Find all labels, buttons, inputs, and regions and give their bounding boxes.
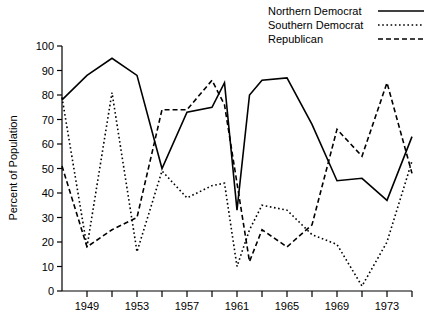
legend-label: Southern Democrat — [268, 19, 363, 31]
x-tick-label: 1973 — [375, 300, 399, 312]
y-tick-label: 30 — [42, 212, 54, 224]
x-tick-label: 1961 — [225, 300, 249, 312]
y-tick-label: 80 — [42, 89, 54, 101]
plot-background — [0, 0, 429, 334]
y-tick-label: 10 — [42, 261, 54, 273]
y-tick-label: 90 — [42, 65, 54, 77]
legend-label: Northern Democrat — [268, 5, 362, 17]
y-tick-label: 40 — [42, 187, 54, 199]
y-tick-label: 20 — [42, 236, 54, 248]
x-tick-label: 1969 — [325, 300, 349, 312]
y-tick-label: 0 — [48, 285, 54, 297]
y-tick-label: 70 — [42, 114, 54, 126]
x-tick-label: 1949 — [75, 300, 99, 312]
x-tick-label: 1953 — [125, 300, 149, 312]
x-tick-label: 1957 — [175, 300, 199, 312]
y-tick-label: 60 — [42, 138, 54, 150]
y-tick-label: 100 — [36, 40, 54, 52]
y-tick-label: 50 — [42, 163, 54, 175]
chart-container: Northern DemocratSouthern DemocratRepubl… — [0, 0, 429, 334]
y-axis-title: Percent of Population — [7, 115, 19, 220]
x-tick-label: 1965 — [275, 300, 299, 312]
legend-label: Republican — [268, 33, 323, 45]
line-chart: Northern DemocratSouthern DemocratRepubl… — [0, 0, 429, 334]
